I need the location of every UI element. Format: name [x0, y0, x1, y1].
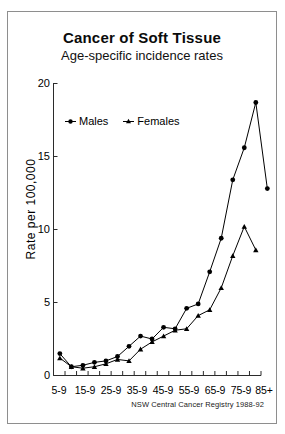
- series-females: [57, 224, 258, 370]
- data-point-females: [219, 285, 224, 290]
- data-point-males: [242, 145, 247, 150]
- data-point-females: [207, 307, 212, 312]
- data-point-males: [253, 100, 258, 105]
- plot-area: [8, 12, 278, 425]
- data-point-males: [230, 177, 235, 182]
- data-point-males: [219, 236, 224, 241]
- data-point-males: [161, 325, 166, 330]
- data-point-males: [196, 302, 201, 307]
- data-point-males: [127, 344, 132, 349]
- data-point-females: [161, 333, 166, 338]
- data-point-males: [92, 360, 97, 365]
- series-males: [57, 100, 269, 369]
- x-axis-ticks: [54, 371, 262, 376]
- chart-frame: Cancer of Soft Tissue Age-specific incid…: [7, 11, 277, 424]
- data-point-males: [184, 306, 189, 311]
- data-point-males: [57, 351, 62, 356]
- figure-page: Cancer of Soft Tissue Age-specific incid…: [0, 0, 285, 434]
- scan-artifact-text: [4, 0, 124, 6]
- y-axis-ticks: [54, 84, 58, 376]
- data-point-females: [253, 247, 258, 252]
- data-point-females: [242, 224, 247, 229]
- source-note: NSW Central Cancer Registry 1988-92: [131, 400, 264, 409]
- data-point-males: [138, 334, 143, 339]
- data-point-females: [138, 347, 143, 352]
- data-point-females: [195, 313, 200, 318]
- data-point-females: [230, 253, 235, 258]
- data-point-males: [265, 186, 270, 191]
- data-point-males: [207, 269, 212, 274]
